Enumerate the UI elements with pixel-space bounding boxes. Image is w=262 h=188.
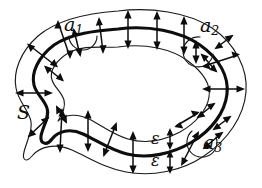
- arrow-double-headed: [129, 131, 136, 174]
- arrow-epsilon-upper: [167, 128, 174, 150]
- label-epsilon-upper: ε: [151, 131, 160, 147]
- arrow-double-headed: [103, 122, 117, 157]
- arrow-double-headed: [15, 89, 53, 96]
- arrow-double-headed: [96, 17, 107, 54]
- arrow-double-headed: [44, 66, 64, 82]
- label-a2: a2: [200, 16, 219, 37]
- label-a3: a3: [203, 133, 222, 154]
- diagram-canvas: [0, 0, 262, 188]
- label-curve-s: S: [17, 103, 30, 122]
- label-a1: a1: [64, 15, 83, 36]
- figure-root: a1 a2 a3 S ε ε: [0, 0, 262, 188]
- arrow-double-headed: [84, 110, 91, 152]
- arrow-double-headed: [202, 85, 245, 92]
- label-epsilon-lower: ε: [151, 153, 160, 169]
